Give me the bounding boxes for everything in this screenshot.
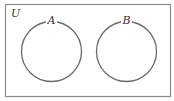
universe-rectangle	[6, 5, 171, 97]
venn-diagram: U A B	[0, 0, 174, 101]
set-b-label: B	[122, 14, 131, 27]
set-a-label: A	[47, 14, 56, 27]
universe-label: U	[11, 7, 21, 20]
